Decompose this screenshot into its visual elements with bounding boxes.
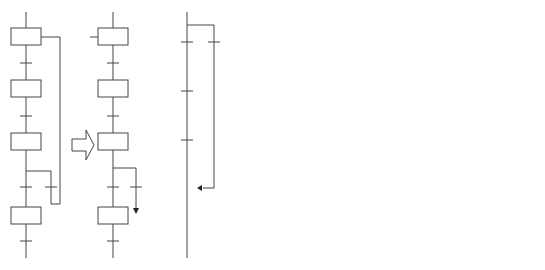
step-box <box>11 133 41 150</box>
diagram-jump-before <box>11 12 60 258</box>
step-box <box>98 207 128 224</box>
step-box <box>11 28 41 45</box>
step-box <box>11 80 41 97</box>
step-box <box>98 80 128 97</box>
arrowhead-icon <box>197 185 202 191</box>
step-box <box>98 133 128 150</box>
sfc-diagram-canvas <box>0 0 545 270</box>
arrowhead-icon <box>133 208 139 214</box>
diagram-skip-before <box>181 12 220 258</box>
diagram-jump-after <box>90 12 142 258</box>
transform-arrow-icon <box>72 130 94 160</box>
step-box <box>98 28 128 45</box>
step-box <box>11 207 41 224</box>
